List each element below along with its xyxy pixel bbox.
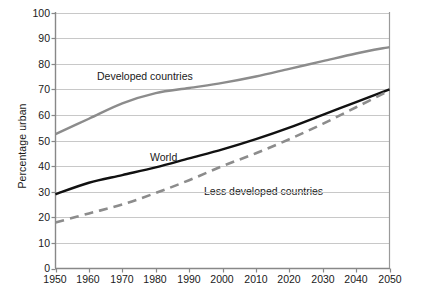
plot-area <box>0 0 421 303</box>
series-lines <box>56 47 390 222</box>
chart-container: Percentage urban 100 90 80 70 60 50 40 3… <box>0 0 421 303</box>
series-line-developed-countries <box>56 47 390 134</box>
